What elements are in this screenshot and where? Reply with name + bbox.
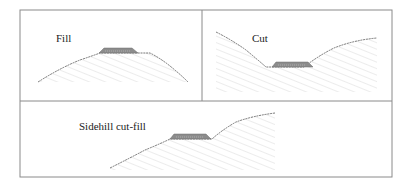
cut-pavement — [272, 62, 313, 67]
fill-embankment-hatch — [38, 53, 188, 82]
fill-label: Fill — [56, 32, 71, 44]
fill-panel: Fill — [38, 32, 188, 82]
cut-label: Cut — [252, 32, 268, 44]
sidehill-pavement — [170, 134, 211, 139]
road-cross-section-diagram: Fill Cut Sidehill cut-fill — [0, 0, 411, 193]
cut-panel: Cut — [216, 32, 377, 92]
sidehill-panel: Sidehill cut-fill — [79, 113, 275, 170]
sidehill-label: Sidehill cut-fill — [79, 120, 146, 132]
fill-pavement — [99, 48, 138, 53]
